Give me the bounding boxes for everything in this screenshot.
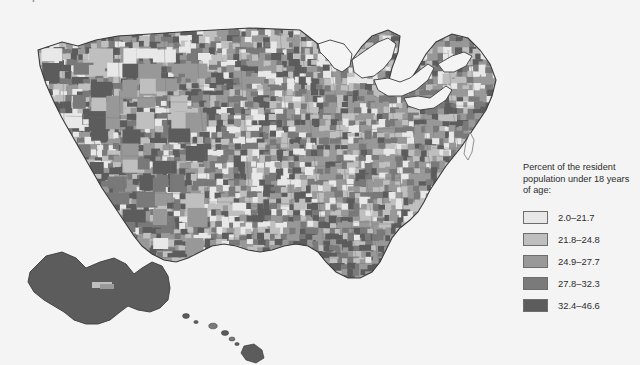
legend-swatch-1 <box>523 211 548 224</box>
map-legend: Percent of the resident population under… <box>523 162 636 317</box>
map-stage <box>0 6 520 365</box>
figure-title: Map 1.1 Children in the United States <box>18 0 198 2</box>
legend-row[interactable]: 32.4–46.6 <box>523 295 636 317</box>
legend-label-4: 27.8–32.3 <box>558 278 600 289</box>
legend-swatch-4 <box>523 277 548 290</box>
legend-swatch-5 <box>523 299 548 312</box>
legend-row[interactable]: 24.9–27.7 <box>523 251 636 273</box>
legend-swatch-2 <box>523 233 548 246</box>
figure-canvas: Map 1.1 Children in the United States <box>0 0 640 365</box>
legend-title: Percent of the resident population under… <box>523 162 631 197</box>
legend-row[interactable]: 2.0–21.7 <box>523 207 636 229</box>
legend-label-5: 32.4–46.6 <box>558 300 600 311</box>
legend-label-3: 24.9–27.7 <box>558 256 600 267</box>
legend-row[interactable]: 21.8–24.8 <box>523 229 636 251</box>
legend-row[interactable]: 27.8–32.3 <box>523 273 636 295</box>
legend-swatch-3 <box>523 255 548 268</box>
legend-label-2: 21.8–24.8 <box>558 234 600 245</box>
us-county-choropleth-map[interactable] <box>0 6 520 365</box>
legend-label-1: 2.0–21.7 <box>558 212 595 223</box>
